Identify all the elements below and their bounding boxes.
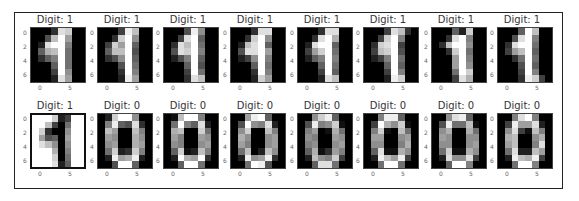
pixel-cell <box>251 161 258 168</box>
pixel-cell <box>238 62 245 69</box>
pixel-cell <box>312 121 319 128</box>
y-tick-label: 6 <box>90 158 94 164</box>
pixel-cell <box>125 28 132 35</box>
pixel-cell <box>345 134 352 141</box>
pixel-cell <box>45 69 52 76</box>
pixel-cell <box>45 48 52 55</box>
pixel-cell <box>384 161 391 168</box>
pixel-cell <box>525 141 532 148</box>
y-tick-label: 2 <box>490 44 494 50</box>
pixel-cell <box>459 161 466 168</box>
pixel-cell <box>178 48 185 55</box>
pixel-cell <box>105 128 112 135</box>
pixel-cell <box>272 134 279 141</box>
pixel-cell <box>132 114 139 121</box>
pixel-cell <box>505 141 512 148</box>
pixel-cell <box>132 62 139 69</box>
pixel-cell <box>132 128 139 135</box>
pixel-cell <box>539 48 546 55</box>
pixel-cell <box>378 35 385 42</box>
pixel-cell <box>525 28 532 35</box>
pixel-cell <box>118 35 125 42</box>
pixel-cell <box>391 148 398 155</box>
pixel-cell <box>498 69 505 76</box>
y-tick-label: 2 <box>223 130 227 136</box>
pixel-cell <box>164 69 171 76</box>
pixel-cell <box>439 161 446 168</box>
digit-panel: Digit: 0024605 <box>491 100 553 184</box>
pixel-cell <box>139 55 146 62</box>
pixel-cell <box>479 62 486 69</box>
x-tick-label: 0 <box>38 85 42 91</box>
pixel-cell <box>446 42 453 49</box>
pixel-cell <box>439 75 446 82</box>
pixel-cell <box>318 114 325 121</box>
pixel-cell <box>432 155 439 162</box>
pixel-cell <box>198 75 205 82</box>
panel-title: Digit: 0 <box>425 100 487 112</box>
pixel-cell <box>231 128 238 135</box>
pixel-cell <box>498 48 505 55</box>
y-tick-label: 4 <box>290 144 294 150</box>
pixel-cell <box>411 69 418 76</box>
pixel-cell <box>105 28 112 35</box>
pixel-cell <box>98 28 105 35</box>
pixel-cell <box>405 155 412 162</box>
pixel-cell <box>38 55 45 62</box>
pixel-cell <box>191 155 198 162</box>
pixel-cell <box>238 42 245 49</box>
pixel-cell <box>145 134 152 141</box>
y-tick-label: 0 <box>90 30 94 36</box>
pixel-cell <box>118 155 125 162</box>
pixel-cell <box>98 42 105 49</box>
pixel-cell <box>432 148 439 155</box>
pixel-cell <box>312 141 319 148</box>
pixel-cell <box>545 148 552 155</box>
pixel-cell <box>364 155 371 162</box>
pixel-cell <box>251 134 258 141</box>
pixel-cell <box>184 62 191 69</box>
pixel-cell <box>318 69 325 76</box>
pixel-cell <box>378 128 385 135</box>
pixel-cell <box>198 148 205 155</box>
x-tick-label: 5 <box>335 85 339 91</box>
pixel-cell <box>258 35 265 42</box>
pixel-cell <box>532 134 539 141</box>
pixel-cell <box>498 75 505 82</box>
pixel-cell <box>245 161 252 168</box>
digit-image <box>363 27 419 83</box>
pixel-cell <box>118 55 125 62</box>
pixel-cell <box>339 161 346 168</box>
x-tick-label: 0 <box>105 85 109 91</box>
pixel-cell <box>178 161 185 168</box>
pixel-cell <box>518 42 525 49</box>
pixel-cell <box>171 114 178 121</box>
pixel-cell <box>452 69 459 76</box>
pixel-cell <box>378 48 385 55</box>
pixel-cell <box>112 48 119 55</box>
pixel-cell <box>339 134 346 141</box>
pixel-cell <box>51 55 58 62</box>
pixel-cell <box>439 148 446 155</box>
pixel-cell <box>31 35 38 42</box>
pixel-cell <box>72 48 79 55</box>
pixel-cell <box>198 42 205 49</box>
pixel-cell <box>545 161 552 168</box>
pixel-cell <box>391 28 398 35</box>
pixel-cell <box>452 114 459 121</box>
pixel-cell <box>371 128 378 135</box>
pixel-cell <box>505 161 512 168</box>
y-tick-label: 0 <box>356 30 360 36</box>
pixel-cell <box>439 114 446 121</box>
pixel-cell <box>238 134 245 141</box>
pixel-cell <box>178 75 185 82</box>
pixel-cell <box>525 48 532 55</box>
pixel-cell <box>432 114 439 121</box>
pixel-cell <box>272 75 279 82</box>
pixel-cell <box>278 35 285 42</box>
pixel-cell <box>45 62 52 69</box>
pixel-cell <box>479 141 486 148</box>
pixel-cell <box>98 121 105 128</box>
digit-panel: Digit: 0024605 <box>291 100 353 184</box>
pixel-cell <box>479 128 486 135</box>
